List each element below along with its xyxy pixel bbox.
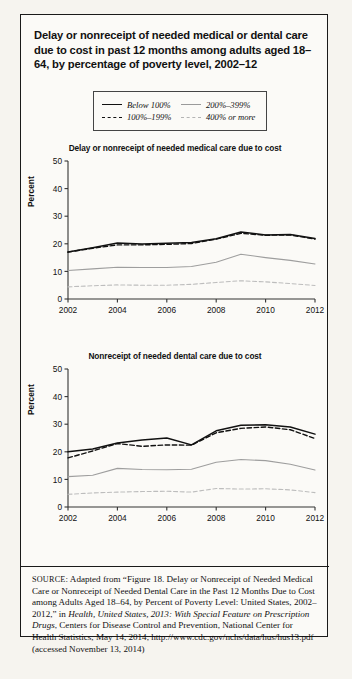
svg-text:10: 10 bbox=[53, 475, 63, 485]
source-paragraph: SOURCE: Adapted from “Figure 18. Delay o… bbox=[32, 574, 318, 655]
figure-container: Delay or nonreceipt of needed medical or… bbox=[20, 14, 328, 637]
svg-text:50: 50 bbox=[53, 364, 63, 374]
line-chart-svg-medical: 01020304050200220042006200820102012 bbox=[21, 155, 329, 325]
legend-line-solid-dark-icon bbox=[102, 101, 122, 109]
svg-text:2010: 2010 bbox=[256, 513, 275, 523]
svg-text:30: 30 bbox=[53, 419, 63, 429]
series-line bbox=[68, 281, 315, 287]
svg-text:2004: 2004 bbox=[108, 513, 127, 523]
source-text-2: , Centers for Disease Control and Preven… bbox=[32, 620, 314, 653]
svg-text:2006: 2006 bbox=[158, 513, 177, 523]
legend-label: 400% or more bbox=[206, 112, 255, 122]
svg-text:20: 20 bbox=[53, 447, 63, 457]
svg-text:10: 10 bbox=[53, 267, 63, 277]
svg-text:30: 30 bbox=[53, 211, 63, 221]
legend-line-dash-dark-icon bbox=[102, 113, 122, 121]
series-line bbox=[68, 232, 315, 252]
legend-line-dash-light-icon bbox=[181, 113, 201, 121]
legend-line-solid-light-icon bbox=[181, 101, 201, 109]
svg-text:2010: 2010 bbox=[256, 305, 275, 315]
series-line bbox=[68, 254, 315, 270]
legend-row: 100%–199% 400% or more bbox=[102, 112, 260, 122]
svg-text:0: 0 bbox=[57, 502, 62, 512]
svg-text:40: 40 bbox=[53, 392, 63, 402]
legend-item-100-199: 100%–199% bbox=[102, 112, 181, 122]
series-line bbox=[68, 427, 315, 458]
chart-legend: Below 100% 200%–399% 100%–199% 400% or m… bbox=[93, 91, 267, 131]
svg-text:2004: 2004 bbox=[108, 305, 127, 315]
plot-area-dental: Percent 01020304050200220042006200820102… bbox=[21, 363, 329, 533]
legend-item-below-100: Below 100% bbox=[102, 100, 181, 110]
legend-label: Below 100% bbox=[127, 100, 171, 110]
series-line bbox=[68, 489, 315, 495]
svg-text:2002: 2002 bbox=[59, 305, 78, 315]
legend-row: Below 100% 200%–399% bbox=[102, 100, 260, 110]
svg-text:2012: 2012 bbox=[306, 305, 325, 315]
legend-label: 200%–399% bbox=[206, 100, 250, 110]
line-chart-svg-dental: 01020304050200220042006200820102012 bbox=[21, 363, 329, 533]
legend-item-400-or-more: 400% or more bbox=[181, 112, 260, 122]
legend-item-200-399: 200%–399% bbox=[181, 100, 260, 110]
y-axis-label: Percent bbox=[26, 176, 36, 207]
y-axis-label: Percent bbox=[26, 384, 36, 415]
svg-text:2006: 2006 bbox=[158, 305, 177, 315]
svg-text:2008: 2008 bbox=[207, 305, 226, 315]
source-prefix: SOURCE bbox=[32, 575, 66, 584]
svg-text:2012: 2012 bbox=[306, 513, 325, 523]
chart-title: Nonreceipt of needed dental care due to … bbox=[21, 351, 329, 361]
chart-medical-care: Delay or nonreceipt of needed medical ca… bbox=[21, 143, 329, 343]
chart-dental-care: Nonreceipt of needed dental care due to … bbox=[21, 351, 329, 556]
series-line bbox=[68, 460, 315, 477]
legend-label: 100%–199% bbox=[127, 112, 171, 122]
svg-text:2002: 2002 bbox=[59, 513, 78, 523]
svg-text:0: 0 bbox=[57, 294, 62, 304]
svg-text:50: 50 bbox=[53, 156, 63, 166]
page-background: Delay or nonreceipt of needed medical or… bbox=[0, 0, 352, 679]
source-note: SOURCE: Adapted from “Figure 18. Delay o… bbox=[21, 566, 329, 655]
chart-title: Delay or nonreceipt of needed medical ca… bbox=[21, 143, 329, 153]
plot-area-medical: Percent 01020304050200220042006200820102… bbox=[21, 155, 329, 325]
figure-title: Delay or nonreceipt of needed medical or… bbox=[21, 15, 327, 72]
svg-text:2008: 2008 bbox=[207, 513, 226, 523]
svg-text:20: 20 bbox=[53, 239, 63, 249]
svg-text:40: 40 bbox=[53, 184, 63, 194]
